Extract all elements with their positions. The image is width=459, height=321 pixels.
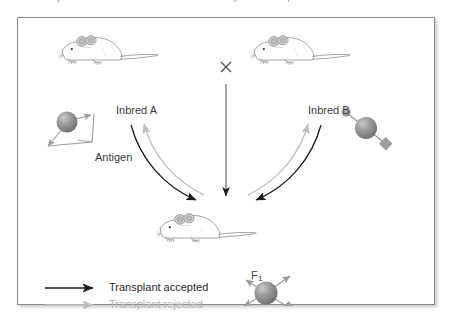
legend-label-accepted: Transplant accepted bbox=[109, 281, 208, 293]
arrow-rejected-f1-to-b bbox=[248, 124, 308, 195]
legend-arrow-rejected-icon bbox=[43, 297, 101, 313]
legend-row-rejected: Transplant rejected bbox=[43, 297, 253, 314]
legend-arrow-accepted-icon bbox=[43, 280, 101, 296]
antigen-callout-line bbox=[78, 140, 92, 142]
legend-row-accepted: Transplant accepted bbox=[43, 280, 253, 297]
arrow-rejected-f1-to-a bbox=[144, 124, 204, 195]
figure-frame: Inbred A Inbred B Antigen F1 Transplant … bbox=[17, 17, 435, 305]
label-inbred-b: Inbred B bbox=[308, 104, 350, 116]
antigen-inbred-a bbox=[48, 112, 94, 147]
legend: Transplant accepted Transplant rejected bbox=[43, 280, 253, 314]
label-inbred-a: Inbred A bbox=[116, 104, 157, 116]
f1-subscript: 1 bbox=[258, 274, 263, 283]
label-antigen-callout: Antigen bbox=[95, 151, 132, 163]
figure-caption-strip: transplanted from one inbred strain to a… bbox=[0, 0, 459, 14]
transplant-diagram bbox=[18, 18, 436, 306]
legend-label-rejected: Transplant rejected bbox=[109, 298, 203, 310]
mouse-inbred-a bbox=[58, 36, 158, 65]
mouse-f1-hybrid bbox=[156, 214, 256, 243]
figure-caption-text: transplanted from one inbred strain to a… bbox=[36, 0, 357, 2]
cross-symbol bbox=[221, 62, 231, 72]
mouse-inbred-b bbox=[250, 36, 350, 65]
